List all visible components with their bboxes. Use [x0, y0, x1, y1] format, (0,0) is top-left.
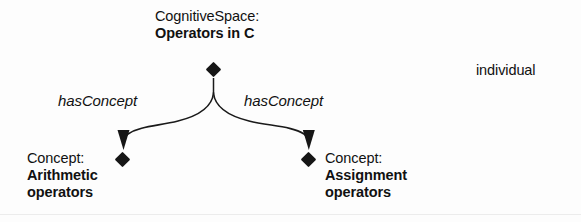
node-cognitivespace-name-label: Operators in C — [155, 25, 259, 42]
node-concept-assignment-name-line1: Assignment — [325, 167, 407, 184]
ontology-diagram: CognitiveSpace: Operators in C hasConcep… — [0, 0, 581, 222]
node-cognitivespace-type-label: CognitiveSpace: — [155, 8, 259, 25]
arrowhead-down-icon-left — [118, 130, 130, 150]
arrowhead-down-icon-right — [303, 130, 315, 150]
edge-label-hasconcept-right: hasConcept — [244, 92, 323, 109]
node-concept-assignment-operators[interactable]: Concept: Assignment operators — [325, 150, 407, 200]
node-concept-arithmetic-type-label: Concept: — [27, 150, 98, 167]
legend: individual — [440, 58, 570, 86]
node-cognitivespace[interactable]: CognitiveSpace: Operators in C — [155, 8, 259, 42]
node-concept-arithmetic-name-line1: Arithmetic — [27, 167, 98, 184]
node-concept-arithmetic-name-line2: operators — [27, 184, 98, 201]
edge-label-hasconcept-left: hasConcept — [58, 92, 137, 109]
node-concept-assignment-name-line2: operators — [325, 184, 407, 201]
node-concept-assignment-type-label: Concept: — [325, 150, 407, 167]
node-concept-arithmetic-operators[interactable]: Concept: Arithmetic operators — [27, 150, 98, 200]
scan-artifact-line — [0, 214, 581, 215]
legend-label-individual: individual — [476, 62, 535, 78]
